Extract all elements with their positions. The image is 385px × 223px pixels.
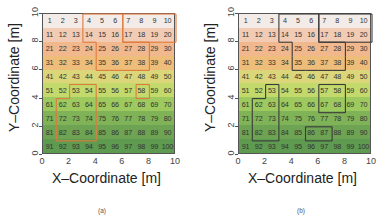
grid-cell: 13 (69, 28, 82, 42)
grid-cell: 39 (344, 56, 357, 70)
grid-cell: 29 (148, 42, 161, 56)
grid-cell: 16 (109, 28, 122, 42)
grid-cell: 14 (278, 28, 291, 42)
grid-cell: 6 (305, 14, 318, 28)
grid-cell: 53 (265, 83, 278, 97)
grid-cell: 92 (252, 139, 265, 153)
grid-cell: 61 (43, 97, 56, 111)
grid-cell: 74 (82, 111, 95, 125)
grid-cell: 82 (252, 125, 265, 139)
grid-cell: 68 (331, 97, 344, 111)
grid-cell: 17 (318, 28, 331, 42)
x-axis-label: X–Coordinate [m] (248, 170, 357, 186)
grid-cell: 7 (122, 14, 135, 28)
grid-cell: 49 (344, 70, 357, 84)
grid-cell: 8 (135, 14, 148, 28)
grid-cell: 71 (239, 111, 252, 125)
grid-cell: 66 (109, 97, 122, 111)
y-tick-mark (235, 154, 238, 155)
grid-cell: 19 (344, 28, 357, 42)
grid-cell: 49 (148, 70, 161, 84)
x-tick-label: 10 (167, 156, 183, 166)
grid-cell: 88 (331, 125, 344, 139)
grid-cell: 98 (331, 139, 344, 153)
x-axis-label: X–Coordinate [m] (52, 170, 161, 186)
y-axis-label: Y–Coordinate [m] (6, 23, 22, 132)
y-tick-label: 4 (30, 90, 40, 104)
grid-cell: 78 (135, 111, 148, 125)
grid-cell: 5 (291, 14, 304, 28)
grid-cell: 12 (56, 28, 69, 42)
grid-cell: 8 (331, 14, 344, 28)
grid-cell: 30 (161, 42, 174, 56)
grid-cell: 23 (265, 42, 278, 56)
grid-cell: 21 (43, 42, 56, 56)
grid-cell: 80 (161, 111, 174, 125)
grid-cell: 91 (239, 139, 252, 153)
grid-cell: 69 (148, 97, 161, 111)
grid-cell: 63 (69, 97, 82, 111)
grid-cell: 45 (95, 70, 108, 84)
grid-cell: 70 (357, 97, 370, 111)
y-tick-label: 2 (30, 118, 40, 132)
grid-cell: 14 (82, 28, 95, 42)
grid-plot: 1234567891011121314151617181920212223242… (238, 13, 371, 154)
grid-cell: 40 (357, 56, 370, 70)
grid-cell: 24 (82, 42, 95, 56)
grid-cell: 54 (82, 83, 95, 97)
grid-cell: 25 (291, 42, 304, 56)
grid-cell: 35 (95, 56, 108, 70)
grid-cell: 87 (318, 125, 331, 139)
grid-cell: 78 (331, 111, 344, 125)
y-tick-label: 8 (30, 33, 40, 47)
grid-cell: 67 (122, 97, 135, 111)
grid-cell: 91 (43, 139, 56, 153)
grid-cell: 35 (291, 56, 304, 70)
y-tick-mark (39, 98, 42, 99)
grid-cell: 13 (265, 28, 278, 42)
grid-cell: 30 (357, 42, 370, 56)
grid-cell: 4 (278, 14, 291, 28)
x-tick-label: 6 (310, 156, 326, 166)
cell-grid: 1234567891011121314151617181920212223242… (43, 14, 174, 153)
grid-cell: 34 (82, 56, 95, 70)
grid-cell: 51 (43, 83, 56, 97)
grid-cell: 96 (305, 139, 318, 153)
grid-cell: 67 (318, 97, 331, 111)
grid-cell: 90 (357, 125, 370, 139)
grid-cell: 70 (161, 97, 174, 111)
grid-cell: 18 (135, 28, 148, 42)
grid-cell: 1 (43, 14, 56, 28)
grid-cell: 57 (318, 83, 331, 97)
panel-caption: (a) (98, 207, 106, 214)
y-tick-mark (235, 69, 238, 70)
grid-cell: 36 (109, 56, 122, 70)
grid-cell: 89 (344, 125, 357, 139)
x-tick-label: 8 (336, 156, 352, 166)
grid-cell: 39 (148, 56, 161, 70)
grid-cell: 5 (95, 14, 108, 28)
grid-cell: 79 (344, 111, 357, 125)
grid-cell: 56 (305, 83, 318, 97)
grid-cell: 11 (239, 28, 252, 42)
grid-cell: 66 (305, 97, 318, 111)
y-tick-mark (235, 13, 238, 14)
grid-cell: 42 (56, 70, 69, 84)
grid-cell: 100 (161, 139, 174, 153)
grid-cell: 90 (161, 125, 174, 139)
x-tick-label: 2 (257, 156, 273, 166)
grid-cell: 12 (252, 28, 265, 42)
grid-cell: 52 (252, 83, 265, 97)
grid-cell: 33 (265, 56, 278, 70)
grid-cell: 95 (95, 139, 108, 153)
grid-cell: 29 (344, 42, 357, 56)
y-tick-label: 8 (226, 33, 236, 47)
y-tick-label: 6 (30, 61, 40, 75)
grid-cell: 72 (56, 111, 69, 125)
grid-cell: 28 (331, 42, 344, 56)
grid-cell: 84 (278, 125, 291, 139)
grid-cell: 48 (135, 70, 148, 84)
panel-caption: (b) (297, 207, 305, 214)
grid-cell: 2 (252, 14, 265, 28)
grid-cell: 2 (56, 14, 69, 28)
